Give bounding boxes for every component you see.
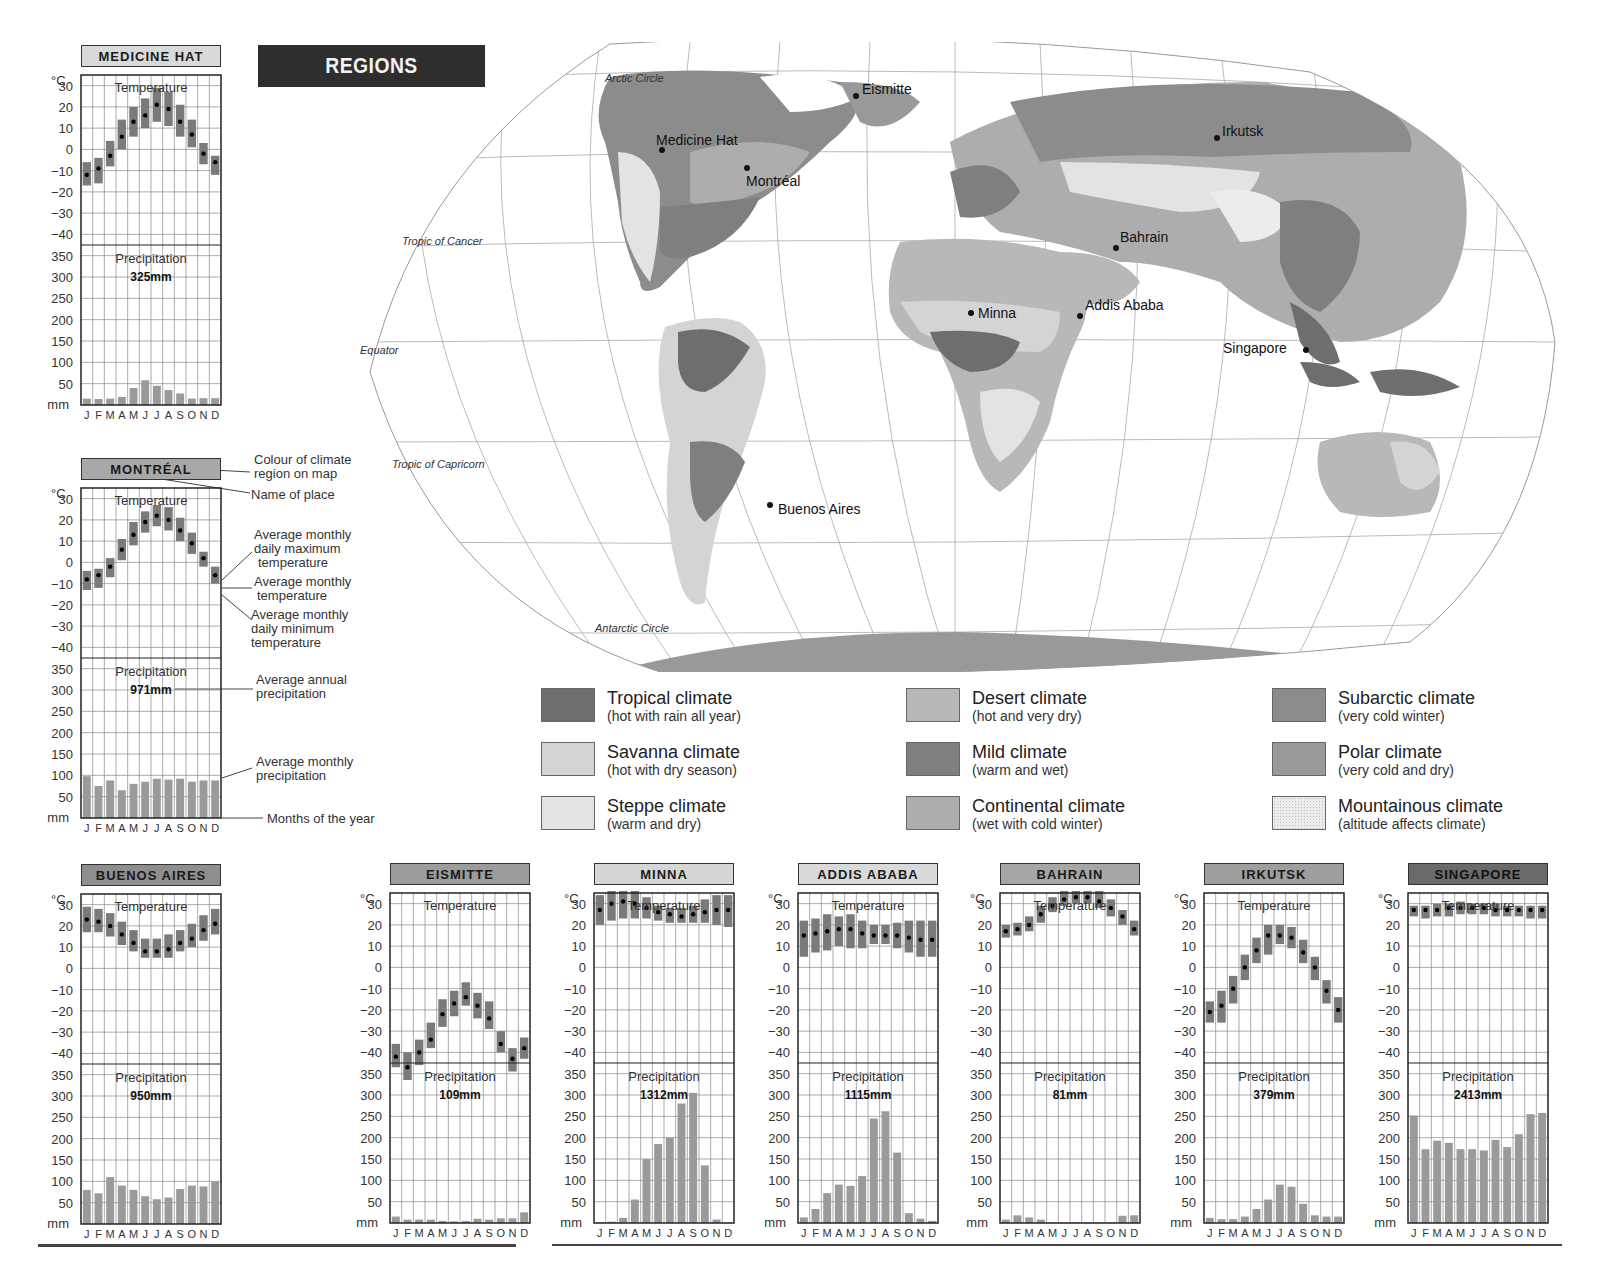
temp-tick: −30 xyxy=(360,1024,382,1039)
month-label: J xyxy=(142,409,148,421)
annual-precip-total: 1115mm xyxy=(845,1088,892,1102)
temp-mean-dot xyxy=(726,908,730,912)
precip-tick: 150 xyxy=(51,334,73,349)
temp-tick: −20 xyxy=(51,185,73,200)
temp-mean-dot xyxy=(930,938,934,942)
month-label: D xyxy=(520,1227,528,1239)
temp-mean-dot xyxy=(1528,908,1532,912)
month-label: O xyxy=(188,1228,197,1240)
temp-tick: −10 xyxy=(1174,982,1196,997)
temp-tick: −20 xyxy=(1174,1003,1196,1018)
temp-bar xyxy=(141,939,149,958)
place-bahrain: Bahrain xyxy=(1120,229,1168,245)
month-label: J xyxy=(667,1227,673,1239)
temp-tick: 10 xyxy=(368,939,382,954)
month-label: M xyxy=(619,1227,628,1239)
temp-mean-dot xyxy=(108,564,112,568)
temp-mean-dot xyxy=(621,899,625,903)
precip-bar xyxy=(188,399,196,405)
temp-tick: −40 xyxy=(564,1045,586,1060)
legend-desc: (very cold and dry) xyxy=(1338,762,1454,778)
precip-bar xyxy=(870,1118,878,1223)
annotation-avg-temp: Average monthlytemperature xyxy=(254,575,351,603)
month-label: S xyxy=(176,1228,183,1240)
month-label: N xyxy=(1119,1227,1127,1239)
temp-mean-dot xyxy=(499,1042,503,1046)
precip-tick: 50 xyxy=(59,377,73,392)
month-label: O xyxy=(497,1227,506,1239)
month-label: M xyxy=(823,1227,832,1239)
month-label: F xyxy=(95,822,102,834)
temp-mean-dot xyxy=(1278,933,1282,937)
temp-tick: 20 xyxy=(59,100,73,115)
legend-swatch xyxy=(906,796,960,830)
city-label-montr-al: MONTRÉAL xyxy=(81,458,221,480)
precip-tick: 200 xyxy=(51,313,73,328)
temp-mean-dot xyxy=(96,166,100,170)
climate-chart-irkutsk: TemperaturePrecipitation379mm°C3020100−1… xyxy=(1154,891,1350,1261)
precip-bar xyxy=(1119,1216,1127,1223)
annotation-max-temp: Average monthlydaily maximumtemperature xyxy=(254,528,351,570)
precip-bar xyxy=(1492,1140,1500,1223)
month-label: M xyxy=(415,1227,424,1239)
climate-chart-singapore: TemperaturePrecipitation2413mm°C3020100−… xyxy=(1358,891,1554,1261)
precip-bar xyxy=(176,779,184,818)
temp-mean-dot xyxy=(598,908,602,912)
month-label: M xyxy=(846,1227,855,1239)
precip-tick: 200 xyxy=(768,1131,790,1146)
precip-bar xyxy=(1253,1209,1261,1223)
precipitation-title: Precipitation xyxy=(424,1069,496,1084)
annual-precip-total: 109mm xyxy=(439,1088,480,1102)
world-climate-map: Arctic Circle Tropic of Cancer Equator T… xyxy=(360,42,1560,672)
month-label: S xyxy=(1095,1227,1102,1239)
precip-tick: 50 xyxy=(978,1195,992,1210)
temp-mean-dot xyxy=(201,928,205,932)
precip-bar xyxy=(812,1209,820,1223)
precip-bar xyxy=(893,1153,901,1223)
precip-bar xyxy=(188,1186,196,1224)
precip-bar xyxy=(176,1189,184,1224)
precip-tick: 100 xyxy=(564,1173,586,1188)
temp-mean-dot xyxy=(155,513,159,517)
month-label: N xyxy=(200,822,208,834)
month-label: A xyxy=(118,409,126,421)
temp-tick: −10 xyxy=(51,164,73,179)
precip-bar xyxy=(211,780,219,818)
month-label: J xyxy=(1277,1227,1283,1239)
precip-bar xyxy=(153,779,161,818)
month-label: J xyxy=(1411,1227,1417,1239)
month-label: N xyxy=(713,1227,721,1239)
temp-bar xyxy=(1264,925,1272,955)
temp-mean-dot xyxy=(1120,914,1124,918)
temp-tick: 20 xyxy=(978,918,992,933)
tropic-of-capricorn-label: Tropic of Capricorn xyxy=(392,458,485,470)
temp-mean-dot xyxy=(475,1003,479,1007)
precip-bar xyxy=(211,398,219,405)
temp-tick: −20 xyxy=(970,1003,992,1018)
precip-bar xyxy=(83,776,91,818)
place-medicine-hat: Medicine Hat xyxy=(656,132,738,148)
month-label: M xyxy=(129,1228,138,1240)
temp-bar xyxy=(188,924,196,947)
month-label: J xyxy=(655,1227,661,1239)
precip-bar xyxy=(847,1186,855,1223)
month-label: F xyxy=(1218,1227,1225,1239)
month-label: A xyxy=(427,1227,435,1239)
legend-name: Subarctic climate xyxy=(1338,688,1475,708)
precip-bar xyxy=(106,1177,114,1224)
temp-tick: −10 xyxy=(51,983,73,998)
legend-name: Tropical climate xyxy=(607,688,741,708)
precip-unit: mm xyxy=(1170,1215,1192,1230)
month-label: F xyxy=(608,1227,615,1239)
precip-tick: 50 xyxy=(1386,1195,1400,1210)
temp-bar xyxy=(164,934,172,957)
legend-item-subarctic: Subarctic climate(very cold winter) xyxy=(1272,688,1475,724)
precip-bar xyxy=(1515,1134,1523,1223)
precip-tick: 300 xyxy=(970,1088,992,1103)
month-label: J xyxy=(1469,1227,1475,1239)
month-label: S xyxy=(1299,1227,1306,1239)
month-label: M xyxy=(1433,1227,1442,1239)
month-label: J xyxy=(451,1227,457,1239)
temp-mean-dot xyxy=(190,936,194,940)
temp-tick: 10 xyxy=(978,939,992,954)
